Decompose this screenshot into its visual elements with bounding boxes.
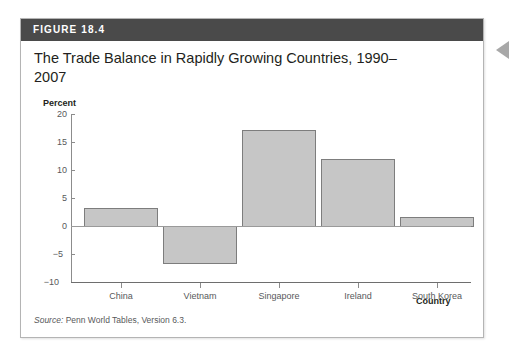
bar-ireland <box>321 159 395 227</box>
y-tick-label-5: 5 <box>45 193 67 203</box>
x-tick-mark-south-korea <box>437 283 438 288</box>
x-tick-mark-ireland <box>358 283 359 288</box>
x-tick-label-south-korea: South Korea <box>412 291 462 301</box>
chart-plot-area: Percent Country 20 15 10 5 0 −5 −10 Chin… <box>21 19 485 339</box>
left-pointing-triangle-icon <box>496 41 509 59</box>
source-text: Penn World Tables, Version 6.3. <box>63 315 186 325</box>
y-tick-mark-15 <box>71 142 75 143</box>
x-tick-mark-china <box>121 283 122 288</box>
y-tick-label-0: 0 <box>45 221 67 231</box>
x-tick-label-ireland: Ireland <box>344 291 372 301</box>
bar-singapore <box>242 130 316 227</box>
y-tick-label-minus10: −10 <box>37 277 59 287</box>
y-tick-label-15: 15 <box>45 137 67 147</box>
source-note: Source: Penn World Tables, Version 6.3. <box>34 315 186 325</box>
x-tick-label-china: China <box>109 291 133 301</box>
y-axis-title: Percent <box>43 98 76 108</box>
y-tick-mark-5 <box>71 198 75 199</box>
y-tick-mark-minus5 <box>71 254 75 255</box>
y-tick-label-10: 10 <box>45 165 67 175</box>
source-prefix: Source: <box>34 315 63 325</box>
y-tick-label-20: 20 <box>45 109 67 119</box>
y-tick-mark-10 <box>71 170 75 171</box>
x-tick-label-singapore: Singapore <box>258 291 299 301</box>
figure-container: FIGURE 18.4 The Trade Balance in Rapidly… <box>20 18 484 338</box>
bar-china <box>84 208 158 227</box>
x-tick-mark-vietnam <box>200 283 201 288</box>
x-tick-mark-singapore <box>279 283 280 288</box>
x-tick-label-vietnam: Vietnam <box>184 291 217 301</box>
zero-baseline <box>71 226 471 227</box>
bar-vietnam <box>163 226 237 264</box>
x-axis-line <box>71 282 471 283</box>
y-tick-mark-20 <box>71 114 75 115</box>
y-tick-label-minus5: −5 <box>41 249 63 259</box>
